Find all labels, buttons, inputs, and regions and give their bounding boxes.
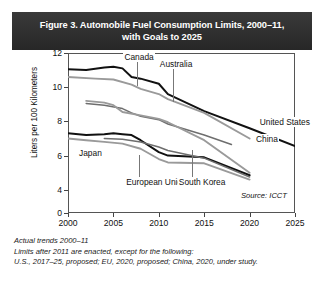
x-tick-label: 2025 [278, 218, 312, 228]
series-line-european-union [68, 139, 250, 180]
series-label-south-korea: South Korea [178, 177, 227, 187]
x-tick-mark [159, 213, 160, 217]
series-label-canada: Canada [123, 52, 154, 62]
y-tick-label: 10 [40, 82, 62, 92]
x-tick-label: 2010 [142, 218, 176, 228]
chart-region: Liters per 100 Kilometers 04681012200020… [12, 50, 312, 232]
figure-card: Figure 3. Automobile Fuel Consumption Li… [0, 0, 324, 284]
figure-title: Figure 3. Automobile Fuel Consumption Li… [40, 19, 284, 43]
y-tick-label: 8 [40, 116, 62, 126]
figure-header-band: Figure 3. Automobile Fuel Consumption Li… [12, 12, 312, 50]
x-tick-mark [250, 213, 251, 217]
x-tick-label: 2005 [96, 218, 130, 228]
x-tick-mark [204, 213, 205, 217]
series-label-china: China [255, 134, 279, 144]
y-tick-mark [64, 53, 68, 54]
source-note: Source: ICCT [241, 191, 287, 200]
figure-title-line-2: with Goals to 2025 [122, 32, 202, 42]
footnote-line-2: Limits after 2011 are enacted, except fo… [14, 247, 314, 258]
series-label-australia: Australia [159, 59, 194, 69]
x-tick-mark [113, 213, 114, 217]
plot-lines [68, 53, 295, 213]
x-tick-label: 2000 [51, 218, 85, 228]
y-tick-label: 4 [40, 185, 62, 195]
series-line-canada [68, 77, 250, 139]
series-label-united-states: United States [259, 117, 311, 127]
y-tick-mark [64, 156, 68, 157]
series-leader-line [173, 64, 174, 102]
figure-title-line-1: Figure 3. Automobile Fuel Consumption Li… [40, 20, 284, 30]
footnote-line-1: Actual trends 2000–11 [14, 236, 314, 247]
x-tick-label: 2020 [233, 218, 267, 228]
x-tick-mark [295, 213, 296, 217]
x-tick-mark [68, 213, 69, 217]
figure-footnotes: Actual trends 2000–11 Limits after 2011 … [14, 236, 314, 268]
footnote-line-3: U.S., 2017–25, proposed; EU, 2020, propo… [14, 257, 314, 268]
series-label-japan: Japan [78, 148, 103, 158]
y-tick-label: 6 [40, 151, 62, 161]
y-tick-label: 12 [40, 48, 62, 58]
y-tick-label: 0 [40, 208, 62, 218]
y-axis-title: Liters per 100 Kilometers [30, 53, 39, 173]
x-tick-label: 2015 [187, 218, 221, 228]
y-tick-mark [64, 121, 68, 122]
y-tick-mark [64, 87, 68, 88]
y-tick-mark [64, 190, 68, 191]
